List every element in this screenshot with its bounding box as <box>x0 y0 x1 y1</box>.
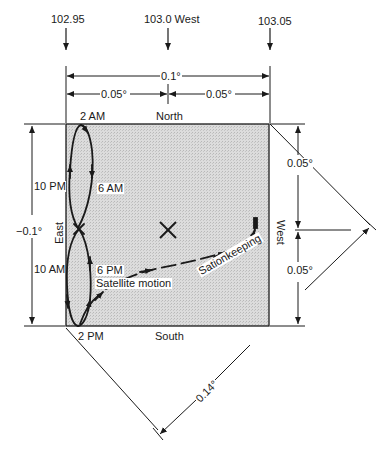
time-10am: 10 AM <box>34 264 65 275</box>
direction-south: South <box>155 331 184 342</box>
time-2pm: 2 PM <box>78 331 104 342</box>
annotation-satellite-motion: Satellite motion <box>95 278 172 289</box>
direction-north: North <box>156 111 183 122</box>
longitude-label-103-0: 103.0 West <box>144 14 199 25</box>
longitude-arrows <box>66 28 270 50</box>
dim-half-height-upper: 0.05° <box>287 158 313 169</box>
dim-total-height: −0.1° <box>16 225 42 238</box>
dim-half-width-right: 0.05° <box>206 89 232 100</box>
dim-total-width: 0.1° <box>160 71 182 82</box>
time-6pm: 6 PM <box>96 265 124 276</box>
direction-west: West <box>275 220 286 245</box>
station-box <box>66 124 269 326</box>
time-6am: 6 AM <box>97 183 124 194</box>
time-10pm: 10 PM <box>34 181 66 192</box>
longitude-label-103-05: 103.05 <box>258 16 292 27</box>
time-2am: 2 AM <box>80 111 105 122</box>
dim-half-width-left: 0.05° <box>101 89 127 100</box>
longitude-label-102-95: 102.95 <box>51 14 85 25</box>
dim-half-height-lower: 0.05° <box>287 265 313 276</box>
direction-east: East <box>54 222 65 244</box>
